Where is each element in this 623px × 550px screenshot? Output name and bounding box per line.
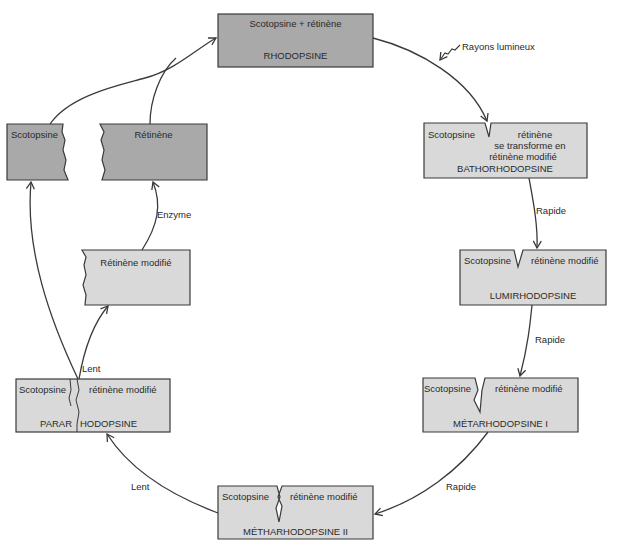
bathorhodopsine-name: BATHORHODOPSINE bbox=[430, 163, 580, 174]
arrow-metharhodopsine-2-to-pararhodopsine bbox=[107, 434, 218, 513]
lumirhodopsine-left: Scotopsine bbox=[464, 255, 511, 266]
retinene-label: Rétinène bbox=[100, 129, 207, 140]
lumirhodopsine-name: LUMIRHODOPSINE bbox=[460, 290, 606, 301]
bathorhodopsine-line2: se transforme en bbox=[470, 140, 590, 151]
light-rays-label: Rayons lumineux bbox=[462, 41, 535, 52]
pararhodopsine-name-right: HODOPSINE bbox=[80, 418, 137, 429]
arrow-metarhodopsine-1-to-metharhodopsine-2 bbox=[375, 432, 488, 514]
metarhodopsine-1-right: rétinène modifié bbox=[495, 383, 563, 394]
retinene-modifie-label: Rétinène modifié bbox=[82, 257, 190, 268]
pararhodopsine-left: Scotopsine bbox=[19, 384, 66, 395]
arrow-retinene-to-rhodopsine bbox=[150, 58, 176, 124]
metarhodopsine-1-name: MÉTARHODOPSINE I bbox=[423, 418, 578, 429]
rhodopsine-top-label: Scotopsine + rétinène bbox=[218, 18, 373, 29]
metharhodopsine-2-left: Scotopsine bbox=[222, 491, 269, 502]
scotopsine-label: Scotopsine bbox=[11, 129, 58, 140]
metarhodopsine-1-left: Scotopsine bbox=[424, 383, 471, 394]
rapide-label-2: Rapide bbox=[535, 334, 565, 345]
metharhodopsine-2-name: MÉTHARHODOPSINE II bbox=[218, 526, 373, 537]
bathorhodopsine-line3: rétinène modifié bbox=[468, 151, 578, 162]
light-rays-icon bbox=[440, 45, 460, 60]
rhodopsin-cycle-diagram bbox=[0, 0, 623, 550]
pararhodopsine-name-left: PARAR bbox=[40, 418, 72, 429]
rapide-label-1: Rapide bbox=[536, 205, 566, 216]
rapide-label-3: Rapide bbox=[446, 481, 476, 492]
bathorhodopsine-right: rétinène bbox=[480, 129, 590, 140]
enzyme-label: Enzyme bbox=[157, 209, 191, 220]
arrow-scotopsine-to-rhodopsine bbox=[50, 38, 216, 124]
lent-label-2: Lent bbox=[131, 481, 150, 492]
bathorhodopsine-left: Scotopsine bbox=[428, 129, 475, 140]
rhodopsine-name: RHODOPSINE bbox=[218, 50, 373, 61]
pararhodopsine-right: rétinène modifié bbox=[89, 384, 157, 395]
arrow-lumirhodopsine-to-metarhodopsine-1 bbox=[520, 305, 532, 376]
arrow-pararhodopsine-to-scotopsine bbox=[30, 182, 78, 379]
lent-label-1: Lent bbox=[82, 363, 101, 374]
metharhodopsine-2-right: rétinène modifié bbox=[290, 491, 358, 502]
lumirhodopsine-right: rétinène modifié bbox=[531, 255, 599, 266]
arrow-retinene-modifie-to-retinene bbox=[142, 182, 158, 250]
